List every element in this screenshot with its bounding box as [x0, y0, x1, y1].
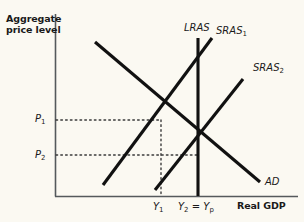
y-axis-title-line-2: price level [6, 25, 61, 36]
tick-output-equals-sign: = [189, 201, 204, 212]
sras1-label-text: SRAS [216, 25, 242, 36]
tick-label-price-1: P1 [35, 113, 46, 125]
ad-curve-label: AD [265, 176, 280, 187]
lras-label-text: LRAS [184, 22, 210, 33]
x-axis-title: Real GDP [237, 201, 286, 212]
sras1-curve-label: SRAS1 [216, 25, 247, 37]
sras2-label-subscript: 2 [279, 67, 283, 75]
sras2-label-text: SRAS [253, 62, 279, 73]
tick-price-2-subscript: 2 [41, 154, 45, 162]
sras1-curve [103, 38, 212, 185]
tick-label-output-1: Y1 [153, 201, 164, 213]
tick-output-1-subscript: 1 [159, 206, 163, 214]
sras2-curve-label: SRAS2 [253, 62, 284, 74]
tick-price-1-subscript: 1 [41, 118, 45, 126]
tick-label-price-2: P2 [35, 149, 46, 161]
tick-output-2-subscript: 2 [184, 206, 188, 214]
lras-curve-label: LRAS [184, 22, 210, 33]
ad-label-text: AD [265, 176, 280, 187]
tick-label-output-2: Y2 = Yp [178, 201, 214, 213]
tick-output-potential-subscript: p [209, 206, 213, 214]
sras1-label-subscript: 1 [242, 30, 246, 38]
ad-as-diagram: Aggregate price level Real GDP LRAS SRAS… [0, 0, 304, 222]
y-axis-title: Aggregate price level [6, 14, 61, 35]
